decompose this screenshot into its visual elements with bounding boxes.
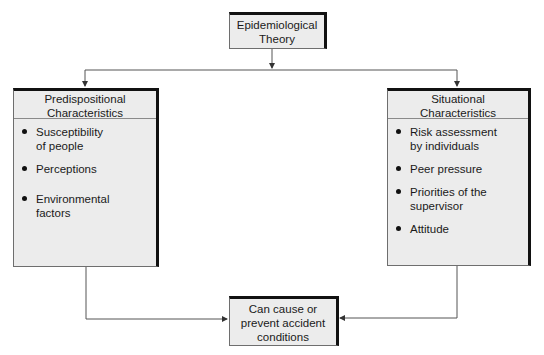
item-line: Perceptions xyxy=(36,162,156,176)
bottom-node-label: Can cause or prevent accident conditions xyxy=(230,299,336,344)
bottom-node-accident-conditions: Can cause or prevent accident conditions xyxy=(229,296,339,346)
list-item: Perceptions xyxy=(22,162,156,176)
item-line: by individuals xyxy=(410,139,528,153)
right-group-title: Situational Characteristics xyxy=(388,91,528,119)
item-line: supervisor xyxy=(410,199,528,213)
list-item: Environmental factors xyxy=(22,192,156,220)
bullet-icon xyxy=(396,129,401,134)
bottom-line-1: Can cause or xyxy=(230,302,336,316)
bullet-icon xyxy=(396,226,401,231)
top-node-label: Epidemiological Theory xyxy=(230,15,324,46)
left-title-line-1: Predispositional xyxy=(14,92,156,106)
item-line: Priorities of the xyxy=(410,185,528,199)
item-line: factors xyxy=(36,206,156,220)
right-group-items: Risk assessment by individuals Peer pres… xyxy=(388,119,528,236)
bullet-icon xyxy=(22,196,27,201)
left-title-line-2: Characteristics xyxy=(14,106,156,120)
bottom-line-2: prevent accident xyxy=(230,316,336,330)
left-to-bottom xyxy=(86,266,227,319)
item-line: Attitude xyxy=(410,222,528,236)
list-item: Attitude xyxy=(396,222,528,236)
bottom-line-3: conditions xyxy=(230,330,336,344)
list-item: Susceptibility of people xyxy=(22,125,156,153)
item-line: Risk assessment xyxy=(410,125,528,139)
item-line: Peer pressure xyxy=(410,162,528,176)
right-title-line-2: Characteristics xyxy=(388,106,528,120)
bullet-icon xyxy=(22,166,27,171)
left-group-title: Predispositional Characteristics xyxy=(14,91,156,119)
list-item: Priorities of the supervisor xyxy=(396,185,528,213)
left-group-items: Susceptibility of people Perceptions Env… xyxy=(14,119,156,220)
right-to-bottom xyxy=(340,265,457,318)
top-node-line-1: Epidemiological xyxy=(230,18,324,32)
item-line: of people xyxy=(36,139,156,153)
top-node-epidemiological-theory: Epidemiological Theory xyxy=(229,12,327,49)
bullet-icon xyxy=(22,129,27,134)
bullet-icon xyxy=(396,166,401,171)
bullet-icon xyxy=(396,189,401,194)
item-line: Environmental xyxy=(36,192,156,206)
top-node-line-2: Theory xyxy=(230,32,324,46)
list-item: Risk assessment by individuals xyxy=(396,125,528,153)
right-title-line-1: Situational xyxy=(388,92,528,106)
right-group-situational: Situational Characteristics Risk assessm… xyxy=(387,88,531,266)
list-item: Peer pressure xyxy=(396,162,528,176)
left-group-predispositional: Predispositional Characteristics Suscept… xyxy=(13,88,159,267)
item-line: Susceptibility xyxy=(36,125,156,139)
